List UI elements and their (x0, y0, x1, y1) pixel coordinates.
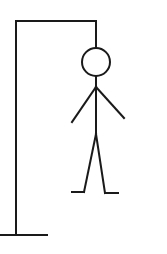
figure-left-arm (72, 87, 96, 122)
hangman-canvas (0, 0, 167, 254)
figure-right-arm (96, 87, 124, 118)
figure-left-leg (84, 134, 96, 192)
hangman-drawing (0, 0, 167, 254)
figure-right-leg (96, 134, 105, 193)
figure-head (82, 48, 110, 76)
